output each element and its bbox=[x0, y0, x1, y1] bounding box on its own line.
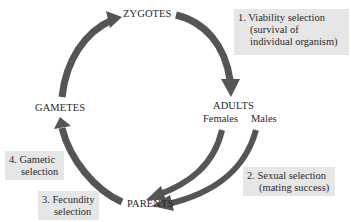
gametic-title: Gametic bbox=[20, 154, 56, 165]
fecundity-line-2: selection bbox=[42, 206, 95, 218]
stage-parents: PARENTS bbox=[127, 199, 173, 210]
sexual-line-2: (mating success) bbox=[247, 182, 331, 194]
gametic-selection-box: 4. Gametic selection bbox=[5, 151, 64, 180]
sexual-number: 2. bbox=[247, 170, 255, 181]
viability-line-1: 1. Viability selection bbox=[238, 12, 345, 24]
gametic-number: 4. bbox=[9, 154, 17, 165]
arrow-parents-to-gametes bbox=[54, 117, 122, 202]
fecundity-line-1: 3. Fecundity bbox=[42, 194, 95, 206]
sexual-title: Sexual selection bbox=[258, 170, 327, 181]
viability-line-3: individual organism) bbox=[238, 36, 345, 48]
stage-zygotes: ZYGOTES bbox=[123, 9, 172, 20]
gametic-line-1: 4. Gametic bbox=[9, 154, 60, 166]
stage-males: Males bbox=[251, 114, 277, 125]
sexual-selection-box: 2. Sexual selection (mating success) bbox=[243, 167, 335, 196]
arrow-gametes-to-zygotes bbox=[62, 11, 122, 97]
viability-title: Viability selection bbox=[248, 12, 325, 23]
stage-adults: ADULTS bbox=[213, 101, 254, 112]
stage-gametes: GAMETES bbox=[35, 103, 85, 114]
fecundity-number: 3. bbox=[42, 194, 50, 205]
stage-females: Females bbox=[203, 114, 238, 125]
viability-line-2: (survival of bbox=[238, 24, 345, 36]
gametic-line-2: selection bbox=[9, 166, 60, 178]
viability-selection-box: 1. Viability selection (survival of indi… bbox=[234, 9, 349, 55]
sexual-line-1: 2. Sexual selection bbox=[247, 170, 331, 182]
arrow-zygotes-to-adults bbox=[176, 15, 240, 97]
selection-life-cycle-diagram: ZYGOTES ADULTS Females Males PARENTS GAM… bbox=[0, 0, 351, 222]
fecundity-title: Fecundity bbox=[53, 194, 95, 205]
fecundity-selection-box: 3. Fecundity selection bbox=[38, 191, 99, 220]
viability-number: 1. bbox=[238, 12, 246, 23]
